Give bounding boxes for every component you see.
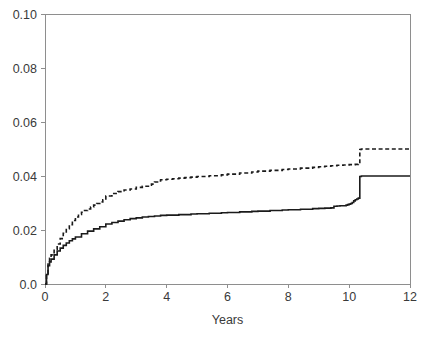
y-tick-label: 0.04 — [13, 170, 37, 184]
series-upper-curve — [45, 149, 410, 284]
y-tick-label: 0.10 — [13, 8, 37, 22]
x-tick-label: 4 — [163, 290, 170, 304]
y-axis-ticks: 0.00.020.040.060.080.10 — [13, 8, 45, 292]
x-axis-title: Years — [212, 313, 244, 327]
x-tick-label: 8 — [285, 290, 292, 304]
survival-curve-chart: 0.00.020.040.060.080.10 024681012 Years — [0, 0, 428, 339]
plot-frame — [45, 14, 410, 284]
x-tick-label: 10 — [342, 290, 356, 304]
y-tick-label: 0.0 — [20, 278, 37, 292]
data-series-group — [45, 149, 410, 284]
y-tick-label: 0.06 — [13, 116, 37, 130]
x-axis-ticks: 024681012 — [42, 284, 417, 304]
series-lower-curve — [45, 176, 410, 284]
x-tick-label: 0 — [42, 290, 49, 304]
x-tick-label: 2 — [102, 290, 109, 304]
chart-figure: 0.00.020.040.060.080.10 024681012 Years — [0, 0, 428, 339]
plot-border — [45, 14, 410, 284]
x-tick-label: 12 — [403, 290, 417, 304]
y-tick-label: 0.02 — [13, 224, 37, 238]
y-tick-label: 0.08 — [13, 62, 37, 76]
x-tick-label: 6 — [224, 290, 231, 304]
